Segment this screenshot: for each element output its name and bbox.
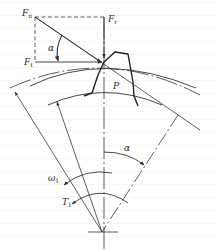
label-fr: Fr xyxy=(107,14,117,25)
pressure-angle-arc-bottom xyxy=(104,152,144,165)
gear-force-diagram: Fn Fr Ft α P α ω1 T1 xyxy=(0,0,217,250)
label-fn: Fn xyxy=(21,8,32,19)
label-alpha-top: α xyxy=(48,43,54,53)
label-ft: Ft xyxy=(23,57,33,68)
label-alpha-bottom: α xyxy=(124,143,130,153)
radius-lines xyxy=(15,92,178,232)
label-omega: ω1 xyxy=(48,173,59,184)
gear-tooth xyxy=(84,52,138,106)
pressure-angle-arc-top xyxy=(57,35,62,61)
base-circle xyxy=(48,93,162,106)
torque-arc xyxy=(72,193,128,204)
label-pitch-point: P xyxy=(112,81,120,91)
label-torque: T1 xyxy=(62,197,72,208)
addendum-circle xyxy=(10,68,200,95)
normal-force-arrow xyxy=(35,17,101,62)
